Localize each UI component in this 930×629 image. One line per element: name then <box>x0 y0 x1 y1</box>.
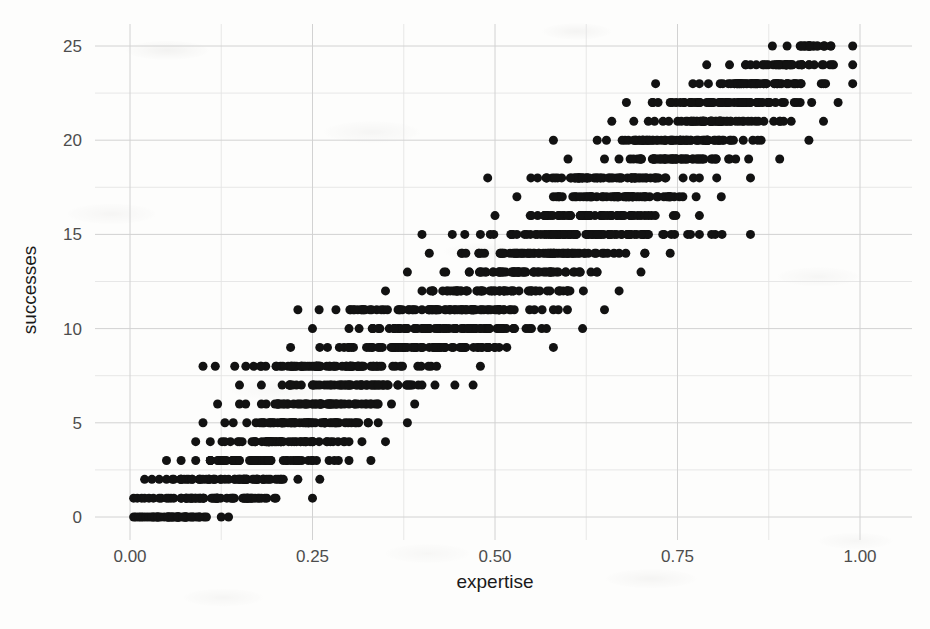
data-point <box>725 98 734 107</box>
data-point <box>429 286 438 295</box>
data-point <box>355 324 364 333</box>
data-point <box>220 418 229 427</box>
data-point <box>359 305 368 314</box>
data-point <box>403 381 412 390</box>
data-point <box>256 362 265 371</box>
data-point <box>540 211 549 220</box>
data-point <box>542 324 551 333</box>
data-point <box>688 117 697 126</box>
data-point <box>195 513 204 522</box>
data-point <box>323 399 332 408</box>
data-point <box>564 286 573 295</box>
data-point <box>746 173 755 182</box>
data-point <box>330 362 339 371</box>
data-point <box>220 437 229 446</box>
data-point <box>715 117 724 126</box>
data-point <box>191 437 200 446</box>
data-point <box>383 305 392 314</box>
data-point <box>693 155 702 164</box>
data-point <box>396 305 405 314</box>
data-point <box>323 437 332 446</box>
data-point <box>807 98 816 107</box>
data-point <box>667 230 676 239</box>
data-point <box>424 305 433 314</box>
scatter-plot-figure: 0.000.250.500.751.00 0510152025 expertis… <box>0 0 930 629</box>
data-point <box>666 98 675 107</box>
data-point <box>279 475 288 484</box>
data-point <box>593 136 602 145</box>
data-point <box>381 286 390 295</box>
data-point <box>178 513 187 522</box>
data-point <box>746 60 755 69</box>
data-point <box>506 286 515 295</box>
data-point <box>465 268 474 277</box>
data-point <box>622 98 631 107</box>
data-point <box>476 268 485 277</box>
data-point <box>805 42 814 51</box>
data-point <box>679 173 688 182</box>
data-point <box>286 343 295 352</box>
data-point <box>235 437 244 446</box>
data-point <box>441 305 450 314</box>
data-point <box>702 60 711 69</box>
data-point <box>390 324 399 333</box>
data-point <box>533 173 542 182</box>
data-point <box>461 249 470 258</box>
data-point <box>739 79 748 88</box>
data-point <box>669 155 678 164</box>
data-point <box>177 456 186 465</box>
data-point <box>596 173 605 182</box>
data-point <box>464 324 473 333</box>
data-point <box>213 399 222 408</box>
data-point <box>775 155 784 164</box>
data-point <box>469 343 478 352</box>
data-point <box>319 418 328 427</box>
data-point <box>199 494 208 503</box>
data-point <box>359 362 368 371</box>
data-point <box>512 192 521 201</box>
data-point <box>731 117 740 126</box>
data-point <box>403 324 412 333</box>
data-point <box>718 230 727 239</box>
x-tick-label: 0.50 <box>478 547 511 566</box>
data-point <box>206 437 215 446</box>
data-point <box>505 305 514 314</box>
data-point <box>623 230 632 239</box>
data-point <box>654 98 663 107</box>
data-point <box>615 286 624 295</box>
data-point <box>286 418 295 427</box>
data-point <box>242 418 251 427</box>
data-point <box>651 173 660 182</box>
data-point <box>549 343 558 352</box>
data-point <box>286 362 295 371</box>
data-point <box>739 136 748 145</box>
data-point <box>512 230 521 239</box>
data-point <box>542 173 551 182</box>
y-axis-tick-labels: 0510152025 <box>63 37 82 527</box>
data-point <box>345 399 354 408</box>
data-point <box>235 456 244 465</box>
data-point <box>315 343 324 352</box>
data-point <box>286 381 295 390</box>
data-point <box>228 494 237 503</box>
data-point <box>439 343 448 352</box>
data-point <box>308 437 317 446</box>
data-point <box>250 437 259 446</box>
y-tick-label: 15 <box>63 225 82 244</box>
data-point <box>828 60 837 69</box>
data-point <box>510 249 519 258</box>
data-point <box>695 173 704 182</box>
data-point <box>301 437 310 446</box>
data-point <box>716 98 725 107</box>
data-point <box>564 211 573 220</box>
data-point <box>439 324 448 333</box>
data-point <box>584 211 593 220</box>
data-point <box>579 286 588 295</box>
data-point <box>331 305 340 314</box>
y-tick-label: 10 <box>63 320 82 339</box>
data-point <box>250 475 259 484</box>
data-point <box>418 230 427 239</box>
data-point <box>476 230 485 239</box>
data-point <box>666 192 675 201</box>
data-point <box>477 249 486 258</box>
